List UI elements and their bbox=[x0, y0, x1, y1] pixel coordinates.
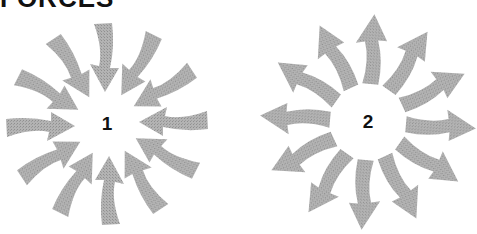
figure-2-label: 2 bbox=[363, 111, 374, 133]
arrow-diagrams bbox=[0, 0, 477, 234]
figure-1-label: 1 bbox=[102, 113, 113, 135]
